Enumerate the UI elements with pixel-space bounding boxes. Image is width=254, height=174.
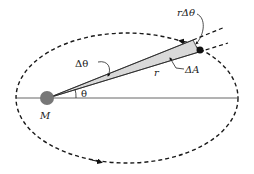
radius-label: r xyxy=(154,67,160,78)
planet-dot xyxy=(197,47,204,54)
delta-area-label: ΔA xyxy=(184,64,199,75)
radius-line-upper xyxy=(48,40,193,98)
arc-length-label: rΔθ xyxy=(177,7,195,18)
angle-theta-arc xyxy=(75,89,76,98)
central-mass xyxy=(40,91,54,105)
radius-line-lower xyxy=(48,52,199,98)
kepler-orbit-diagram: M θ Δθ r ΔA rΔθ xyxy=(0,0,254,174)
radius-extension-upper xyxy=(193,27,225,40)
delta-theta-label: Δθ xyxy=(75,58,88,69)
mass-label: M xyxy=(39,110,51,121)
arc-length-pointer xyxy=(196,14,203,44)
theta-label: θ xyxy=(81,88,87,99)
